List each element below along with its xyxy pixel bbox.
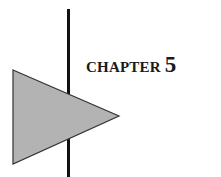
chapter-heading: CHAPTER5: [86, 52, 176, 78]
chapter-label: CHAPTER: [86, 59, 161, 75]
triangle-play-icon: [0, 0, 221, 177]
chapter-number: 5: [165, 52, 177, 77]
